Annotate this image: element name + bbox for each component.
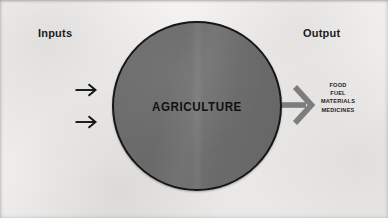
output-list-item: MATERIALS: [312, 97, 364, 105]
output-arrow-icon: [282, 84, 316, 130]
agriculture-label: AGRICULTURE: [120, 100, 274, 114]
output-list-item: MEDICINES: [312, 106, 364, 114]
output-header-label: Output: [303, 27, 340, 39]
inputs-header-label: Inputs: [38, 27, 72, 39]
agriculture-circle-node: AGRICULTURE: [112, 21, 282, 191]
input-arrow-lower-icon: [74, 114, 100, 134]
output-items-list: FOOD FUEL MATERIALS MEDICINES: [312, 81, 364, 114]
output-list-item: FUEL: [312, 89, 364, 97]
input-arrow-upper-icon: [74, 82, 100, 102]
output-list-item: FOOD: [312, 81, 364, 89]
diagram-canvas: Inputs Output AGRICULTURE: [0, 0, 388, 218]
